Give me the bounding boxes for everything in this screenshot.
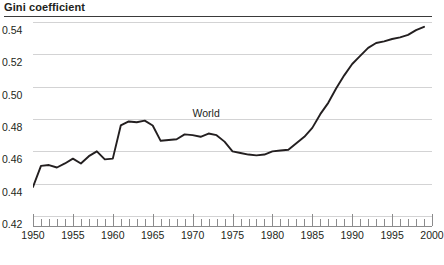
y-axis-tick-label: 0.46 bbox=[2, 153, 22, 165]
series-line-world bbox=[33, 22, 432, 216]
x-axis-minor-tick bbox=[169, 219, 170, 226]
x-axis-tick-label: 1960 bbox=[101, 229, 124, 241]
x-axis-minor-tick bbox=[97, 219, 98, 226]
x-axis-minor-tick bbox=[217, 219, 218, 226]
y-axis-tick-label: 0.52 bbox=[2, 56, 22, 68]
x-axis-minor-tick bbox=[264, 219, 265, 226]
x-axis-tick-label: 1975 bbox=[221, 229, 244, 241]
x-axis-minor-tick bbox=[145, 219, 146, 226]
x-axis-tick-label: 1950 bbox=[21, 229, 44, 241]
x-axis-minor-tick bbox=[57, 219, 58, 226]
x-axis-major-tick bbox=[113, 214, 114, 226]
x-axis-major-tick bbox=[73, 214, 74, 226]
x-axis-tick-label: 1985 bbox=[301, 229, 324, 241]
x-axis-minor-tick bbox=[344, 219, 345, 226]
chart-title: Gini coefficient bbox=[4, 1, 85, 13]
x-axis-minor-tick bbox=[225, 219, 226, 226]
x-axis-tick-label: 1955 bbox=[61, 229, 84, 241]
x-axis-major-tick bbox=[312, 214, 313, 226]
x-axis-minor-tick bbox=[288, 219, 289, 226]
x-axis-minor-tick bbox=[416, 219, 417, 226]
series-annotation-world: World bbox=[193, 107, 220, 119]
x-axis-minor-tick bbox=[320, 219, 321, 226]
x-axis-major-tick bbox=[233, 214, 234, 226]
x-axis-minor-tick bbox=[49, 219, 50, 226]
x-axis-tick-label: 1965 bbox=[141, 229, 164, 241]
x-axis-minor-tick bbox=[424, 219, 425, 226]
x-axis-minor-tick bbox=[256, 219, 257, 226]
x-axis-minor-tick bbox=[360, 219, 361, 226]
x-axis-minor-tick bbox=[121, 219, 122, 226]
x-axis-line bbox=[33, 226, 432, 227]
x-axis-minor-tick bbox=[105, 219, 106, 226]
x-axis-minor-tick bbox=[161, 219, 162, 226]
x-axis-major-tick bbox=[193, 214, 194, 226]
x-axis-minor-tick bbox=[241, 219, 242, 226]
x-axis-minor-tick bbox=[129, 219, 130, 226]
x-axis-minor-tick bbox=[408, 219, 409, 226]
x-axis-minor-tick bbox=[296, 219, 297, 226]
x-axis-minor-tick bbox=[280, 219, 281, 226]
x-axis-major-tick bbox=[153, 214, 154, 226]
x-axis-major-tick bbox=[272, 214, 273, 226]
x-axis-minor-tick bbox=[304, 219, 305, 226]
y-axis-tick-label: 0.42 bbox=[2, 218, 22, 230]
x-axis-major-tick bbox=[432, 214, 433, 226]
x-axis-minor-tick bbox=[41, 219, 42, 226]
y-axis-tick-label: 0.48 bbox=[2, 121, 22, 133]
y-axis-tick-label: 0.50 bbox=[2, 89, 22, 101]
x-axis-minor-tick bbox=[384, 219, 385, 226]
x-axis-tick-label: 1980 bbox=[261, 229, 284, 241]
x-axis-tick-label: 1990 bbox=[341, 229, 364, 241]
x-axis-minor-tick bbox=[177, 219, 178, 226]
x-axis-tick-label: 1970 bbox=[181, 229, 204, 241]
x-axis-minor-tick bbox=[65, 219, 66, 226]
x-axis-minor-tick bbox=[81, 219, 82, 226]
x-axis-minor-tick bbox=[209, 219, 210, 226]
x-axis-minor-tick bbox=[400, 219, 401, 226]
y-axis-tick-label: 0.44 bbox=[2, 186, 22, 198]
x-axis-minor-tick bbox=[249, 219, 250, 226]
x-axis-minor-tick bbox=[137, 219, 138, 226]
x-axis-minor-tick bbox=[201, 219, 202, 226]
x-axis-minor-tick bbox=[328, 219, 329, 226]
x-axis-major-tick bbox=[352, 214, 353, 226]
x-axis-tick-label: 1995 bbox=[380, 229, 403, 241]
x-axis-major-tick bbox=[33, 214, 34, 226]
x-axis-major-tick bbox=[392, 214, 393, 226]
footer-cutoff-text bbox=[4, 259, 304, 264]
y-axis-tick-label: 0.54 bbox=[2, 24, 22, 36]
x-axis-minor-tick bbox=[376, 219, 377, 226]
x-axis-minor-tick bbox=[368, 219, 369, 226]
x-axis-minor-tick bbox=[185, 219, 186, 226]
x-axis-minor-tick bbox=[89, 219, 90, 226]
x-axis-minor-tick bbox=[336, 219, 337, 226]
x-axis-tick-label: 2000 bbox=[420, 229, 443, 241]
title-divider bbox=[4, 16, 432, 17]
